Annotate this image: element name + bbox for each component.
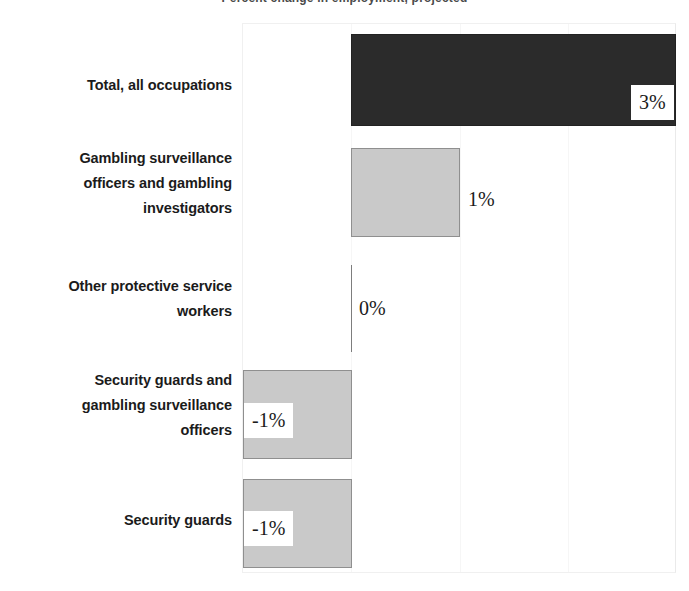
category-label-other-protective-service-workers: Other protective service workers — [0, 274, 232, 324]
category-label-security-guards-and-gambling-surveillance-officers: Security guards and gambling surveillanc… — [0, 368, 232, 443]
category-label-total-all-occupations: Total, all occupations — [0, 73, 232, 98]
chart-row-other-protective-service-workers: Other protective service workers 0% — [0, 258, 689, 360]
chart-row-security-guards-and-gambling-surveillance-officers: Security guards and gambling surveillanc… — [0, 362, 689, 472]
category-label-gambling-surveillance-officers-investigators: Gambling surveillance officers and gambl… — [0, 146, 232, 221]
bar-other-protective-service-workers — [351, 265, 352, 352]
value-label-security-guards-and-gambling-surveillance-officers: -1% — [244, 403, 293, 438]
chart-title: Percent change in employment, projected — [0, 0, 689, 5]
value-label-other-protective-service-workers: 0% — [353, 291, 392, 326]
bar-chart: Percent change in employment, projected … — [0, 0, 689, 591]
chart-row-security-guards: Security guards -1% — [0, 474, 689, 574]
value-label-gambling-surveillance-officers-investigators: 1% — [462, 182, 501, 217]
chart-row-total-all-occupations: Total, all occupations 3% — [0, 30, 689, 138]
chart-row-gambling-surveillance-officers-investigators: Gambling surveillance officers and gambl… — [0, 140, 689, 250]
value-label-security-guards: -1% — [244, 511, 293, 546]
value-label-total-all-occupations: 3% — [631, 85, 674, 120]
bar-total-all-occupations — [351, 34, 676, 126]
category-label-security-guards: Security guards — [0, 508, 232, 533]
bar-gambling-surveillance-officers-investigators — [351, 148, 460, 237]
